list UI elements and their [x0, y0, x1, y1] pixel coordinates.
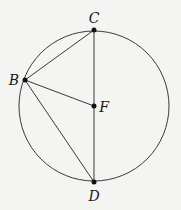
point-D [92, 180, 97, 185]
point-B [23, 78, 28, 83]
segment-BF [25, 80, 94, 106]
segment-BC [25, 30, 94, 80]
point-C [92, 28, 97, 33]
label-B: B [8, 72, 19, 88]
label-C: C [89, 10, 100, 26]
point-F [92, 104, 97, 109]
geometry-diagram: C B F D [0, 0, 181, 210]
label-D: D [87, 188, 99, 204]
segment-BD [25, 80, 94, 182]
label-F: F [98, 99, 110, 115]
